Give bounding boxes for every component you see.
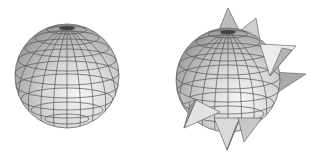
plain-sphere [15,24,119,128]
figure [0,0,321,164]
pole [59,26,75,30]
spiky-sphere [176,8,306,150]
pole [220,30,236,34]
spheres-illustration [0,0,321,164]
